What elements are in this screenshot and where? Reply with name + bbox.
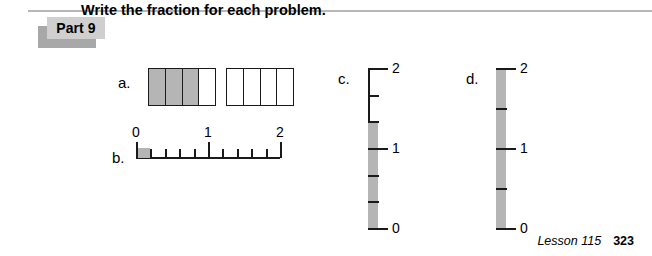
problem-b-label: b. [112,149,125,166]
number-line-minor-tick [222,149,224,158]
number-line-minor-tick [368,121,379,123]
number-line-minor-tick [496,188,507,190]
number-line-major-tick [496,148,516,150]
instruction-text: Write the fraction for each problem. [81,2,326,18]
number-line-minor-tick [496,108,507,110]
number-line-major-tick [368,68,388,70]
number-line-minor-tick [237,149,239,158]
number-line-tick-label: 2 [520,60,528,76]
page-number: 323 [613,234,634,248]
number-line-minor-tick [179,149,181,158]
number-line-major-tick [208,142,210,158]
number-line-minor-tick [266,149,268,158]
number-line-major-tick [368,228,388,230]
number-line-major-tick [496,68,516,70]
number-line-tick-label: 0 [132,124,140,140]
bar-cell [149,69,166,105]
page-footer: Lesson 115323 [537,234,634,248]
bar-cell [183,69,200,105]
number-line-major-tick [496,228,516,230]
number-line-minor-tick [368,201,379,203]
problem-a-label: a. [118,74,131,91]
number-line-tick-label: 0 [520,220,528,236]
part-badge: Part 9 [47,17,105,39]
number-line-tick-label: 1 [392,140,400,156]
bar-model-whole-2 [226,68,294,106]
number-line-minor-tick [251,149,253,158]
number-line-minor-tick [165,149,167,158]
problem-d-label: d. [466,70,479,87]
number-line-minor-tick [368,175,379,177]
bar-cell [199,69,215,105]
number-line-tick-label: 2 [276,124,284,140]
bar-cell [261,69,278,105]
number-line-tick-label: 1 [204,124,212,140]
number-line-minor-tick [194,149,196,158]
problem-c-label: c. [338,70,350,87]
number-line-minor-tick [150,149,152,158]
bar-cell [227,69,244,105]
number-line-major-tick [136,142,138,158]
bar-model-whole-1 [148,68,216,106]
number-line-shaded-region [136,148,150,158]
bar-cell [244,69,261,105]
lesson-label: Lesson 115 [537,234,601,248]
number-line-major-tick [280,142,282,158]
bar-cell [166,69,183,105]
bar-cell [277,69,293,105]
number-line-minor-tick [368,95,379,97]
number-line-tick-label: 2 [392,60,400,76]
number-line-major-tick [368,148,388,150]
number-line-tick-label: 1 [520,140,528,156]
number-line-tick-label: 0 [392,220,400,236]
